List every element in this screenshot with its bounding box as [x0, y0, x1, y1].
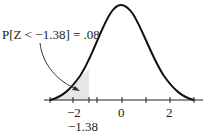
- tick-label-0: 0: [118, 105, 125, 121]
- normal-curve-figure: [0, 0, 215, 137]
- bell-curve: [50, 5, 194, 100]
- probability-label: P[Z < −1.38] = .08: [2, 27, 100, 43]
- tick-label-2: 2: [166, 105, 173, 121]
- shaded-tail-region: [50, 69, 89, 100]
- marked-value-label: −1.38: [68, 119, 98, 135]
- annotation-arrow: [40, 43, 76, 89]
